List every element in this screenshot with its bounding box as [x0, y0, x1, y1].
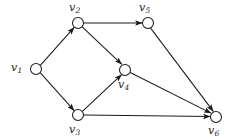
- edge-v2-v4: [82, 27, 122, 65]
- node-label-v1: v1: [11, 62, 22, 73]
- node-v6[interactable]: [211, 112, 222, 123]
- node-label-v4: v4: [118, 79, 129, 90]
- node-label-v5: v5: [139, 2, 150, 13]
- node-v5[interactable]: [143, 18, 154, 29]
- edge-v3-v4: [82, 75, 121, 112]
- graph-canvas: [0, 0, 233, 140]
- directed-graph-figure: v1 v2 v3 v4 v5 v6: [0, 0, 233, 140]
- node-layer: [31, 18, 222, 123]
- node-label-v2: v2: [69, 2, 80, 13]
- node-label-v6: v6: [208, 125, 219, 136]
- edge-v1-v3: [40, 73, 74, 111]
- node-v4[interactable]: [120, 65, 131, 76]
- node-v1[interactable]: [31, 64, 42, 75]
- edge-v3-v6: [84, 115, 211, 117]
- node-v2[interactable]: [73, 18, 84, 29]
- node-label-v3: v3: [69, 124, 80, 135]
- node-v3[interactable]: [73, 110, 84, 121]
- edge-v1-v2: [40, 27, 74, 65]
